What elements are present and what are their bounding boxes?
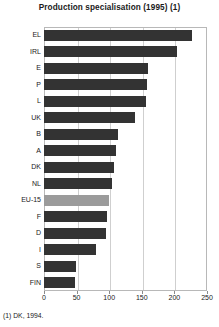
- category-label-eu-15: EU-15: [0, 196, 41, 203]
- bar-row: [44, 178, 207, 189]
- bar-row: [44, 63, 207, 74]
- chart-figure: Production specialisation (1995) (1) ELI…: [0, 0, 219, 327]
- bar-dk: [44, 162, 114, 173]
- chart-title: Production specialisation (1995) (1): [0, 3, 219, 12]
- bar-row: [44, 46, 207, 57]
- bars-layer: [44, 27, 207, 291]
- category-label-a: A: [0, 147, 41, 154]
- value-axis: 050100150200250: [44, 291, 207, 307]
- bar-uk: [44, 112, 135, 123]
- bar-l: [44, 96, 146, 107]
- bar-row: [44, 244, 207, 255]
- x-tick-label: 50: [73, 294, 81, 301]
- bar-f: [44, 211, 107, 222]
- category-label-irl: IRL: [0, 48, 41, 55]
- bar-d: [44, 228, 106, 239]
- category-label-s: S: [0, 262, 41, 269]
- category-label-el: EL: [0, 31, 41, 38]
- category-label-fin: FIN: [0, 279, 41, 286]
- bar-row: [44, 211, 207, 222]
- bar-p: [44, 79, 147, 90]
- category-label-f: F: [0, 213, 41, 220]
- bar-nl: [44, 178, 112, 189]
- x-tick-label: 150: [136, 294, 148, 301]
- category-label-uk: UK: [0, 114, 41, 121]
- bar-row: [44, 228, 207, 239]
- bar-row: [44, 277, 207, 288]
- category-axis-labels: ELIRLEPLUKBADKNLEU-15FDISFIN: [0, 27, 41, 291]
- x-tick-label: 200: [169, 294, 181, 301]
- bar-row: [44, 261, 207, 272]
- bar-el: [44, 30, 192, 41]
- x-tick-label: 100: [103, 294, 115, 301]
- category-label-e: E: [0, 64, 41, 71]
- bar-fin: [44, 277, 75, 288]
- bar-row: [44, 79, 207, 90]
- category-label-l: L: [0, 97, 41, 104]
- bar-row: [44, 129, 207, 140]
- category-label-nl: NL: [0, 180, 41, 187]
- category-label-d: D: [0, 229, 41, 236]
- bar-row: [44, 145, 207, 156]
- bar-irl: [44, 46, 177, 57]
- bar-row: [44, 195, 207, 206]
- x-tick-label: 250: [201, 294, 213, 301]
- chart-footnote: (1) DK, 1994.: [3, 312, 43, 319]
- bar-b: [44, 129, 118, 140]
- bar-row: [44, 96, 207, 107]
- bar-row: [44, 112, 207, 123]
- category-label-i: I: [0, 246, 41, 253]
- category-label-dk: DK: [0, 163, 41, 170]
- bar-row: [44, 30, 207, 41]
- bar-row: [44, 162, 207, 173]
- bar-eu-15: [44, 195, 109, 206]
- x-tick-label: 0: [42, 294, 46, 301]
- bar-i: [44, 244, 96, 255]
- bar-e: [44, 63, 148, 74]
- bar-s: [44, 261, 76, 272]
- category-label-b: B: [0, 130, 41, 137]
- bar-a: [44, 145, 116, 156]
- category-label-p: P: [0, 81, 41, 88]
